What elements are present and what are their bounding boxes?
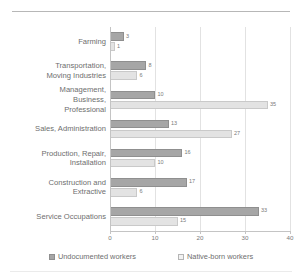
bar-value-label: 1 [117, 44, 120, 50]
category-label: Farming [2, 37, 106, 47]
gridline [245, 27, 246, 231]
bar-native-born [110, 217, 178, 226]
category-label: Transportation, Moving Industries [2, 61, 106, 80]
bar-undocumented [110, 149, 182, 158]
bar-value-label: 17 [189, 179, 195, 185]
bar-value-label: 6 [140, 73, 143, 79]
legend-label-undocumented: Undocumented workers [58, 252, 136, 261]
category-label: Service Occupations [2, 212, 106, 222]
bar-value-label: 6 [140, 189, 143, 195]
bar-undocumented [110, 120, 169, 129]
bar-undocumented [110, 178, 187, 187]
x-axis-tick-label: 40 [287, 234, 294, 241]
category-label: Construction and Extractive [2, 178, 106, 197]
bar-value-label: 27 [234, 131, 240, 137]
bar-value-label: 16 [185, 150, 191, 156]
bar-undocumented [110, 207, 259, 216]
bar-value-label: 10 [158, 92, 164, 98]
bar-value-label: 8 [149, 63, 152, 69]
chart-legend: Undocumented workers Native-born workers [0, 252, 302, 261]
y-axis-line [110, 27, 111, 231]
gridline [290, 27, 291, 231]
legend-item-native-born-workers: Native-born workers [178, 252, 253, 261]
category-label: Management, Business, Professional [2, 85, 106, 114]
bar-value-label: 35 [270, 102, 276, 108]
legend-item-undocumented-workers: Undocumented workers [49, 252, 136, 261]
bar-value-label: 3 [126, 34, 129, 40]
bar-native-born [110, 188, 137, 197]
legend-label-native-born: Native-born workers [187, 252, 253, 261]
legend-swatch-icon-undocumented [49, 254, 55, 260]
bar-native-born [110, 159, 155, 168]
legend-swatch-icon-native-born [178, 254, 184, 260]
category-label: Sales, Administration [2, 124, 106, 134]
x-axis-tick-label: 30 [242, 234, 249, 241]
bar-undocumented [110, 91, 155, 100]
plot-area: 01020304031861035132716101763315 [110, 27, 290, 231]
bar-value-label: 15 [180, 218, 186, 224]
bar-native-born [110, 101, 268, 110]
x-axis-tick-label: 0 [108, 234, 111, 241]
bar-undocumented [110, 32, 124, 41]
x-axis-tick-label: 10 [152, 234, 159, 241]
top-divider [12, 11, 290, 12]
bar-undocumented [110, 61, 146, 70]
x-axis-tick-label: 20 [197, 234, 204, 241]
chart-figure: 01020304031861035132716101763315 Undocum… [0, 0, 302, 280]
category-label: Production, Repair, Installation [2, 149, 106, 168]
bar-value-label: 13 [171, 121, 177, 127]
bar-native-born [110, 71, 137, 80]
bar-native-born [110, 130, 232, 139]
bar-value-label: 33 [261, 208, 267, 214]
bar-value-label: 10 [158, 160, 164, 166]
bottom-divider [10, 271, 292, 272]
